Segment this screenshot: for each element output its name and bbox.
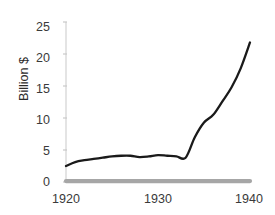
plot-area (0, 0, 275, 215)
series-line-black (66, 42, 250, 166)
chart-container: Billion $ 25 20 15 10 5 0 1920 1930 1940 (0, 0, 275, 215)
data-lines (66, 42, 250, 181)
axis-group (63, 22, 67, 182)
